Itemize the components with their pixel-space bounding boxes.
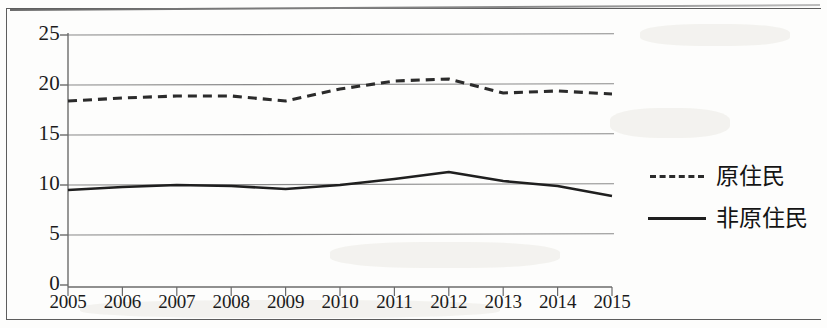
legend-label-non-indigenous: 非原住民 <box>706 206 808 230</box>
x-axis-tick-label: 2007 <box>149 292 205 312</box>
legend-item-indigenous[interactable]: 原住民 <box>648 155 823 197</box>
y-axis-tick-label: 25 <box>14 23 60 44</box>
y-axis-tick-label: 5 <box>14 223 60 244</box>
gridline <box>68 234 614 235</box>
y-axis-tick-label: 15 <box>14 123 60 144</box>
axis-ticks <box>60 35 612 296</box>
x-axis-tick-label: 2013 <box>475 292 531 312</box>
series-line-indigenous <box>68 79 612 101</box>
x-axis-tick-label: 2008 <box>203 292 259 312</box>
chart-legend: 原住民 非原住民 <box>648 155 823 239</box>
legend-swatch-dashed-line-icon <box>648 169 706 183</box>
y-axis-tick-labels: 0510152025 <box>8 0 60 328</box>
legend-swatch-solid-line-icon <box>648 211 706 225</box>
x-axis-tick-label: 2012 <box>421 292 477 312</box>
x-axis-tick-label: 2006 <box>94 292 150 312</box>
legend-item-non-indigenous[interactable]: 非原住民 <box>648 197 823 239</box>
x-axis-tick-label: 2005 <box>40 292 96 312</box>
x-axis-tick-label: 2009 <box>258 292 314 312</box>
gridline <box>68 34 614 35</box>
gridline <box>68 134 614 135</box>
x-axis-tick-label: 2010 <box>312 292 368 312</box>
x-axis-tick-labels: 2005200620072008200920102011201220132014… <box>0 292 827 322</box>
x-axis-tick-label: 2011 <box>366 292 422 312</box>
legend-label-indigenous: 原住民 <box>706 164 785 188</box>
series-line-non-indigenous <box>68 172 612 196</box>
gridlines <box>68 34 614 235</box>
y-axis-tick-label: 20 <box>14 73 60 94</box>
gridline <box>68 84 614 85</box>
y-axis-tick-label: 10 <box>14 173 60 194</box>
chart-figure: 0510152025 20052006200720082009201020112… <box>0 0 827 328</box>
x-axis-tick-label: 2014 <box>530 292 586 312</box>
x-axis-tick-label: 2015 <box>584 292 640 312</box>
